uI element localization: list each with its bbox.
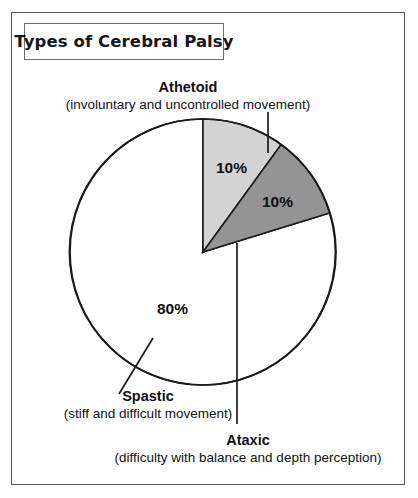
slice-value-athetoid: 10% xyxy=(216,159,247,177)
annotation-ataxic-name: Ataxic xyxy=(88,432,408,450)
slice-value-ataxic: 10% xyxy=(262,193,293,211)
annotation-spastic-description: (stiff and difficult movement) xyxy=(0,406,296,422)
title-box: Types of Cerebral Palsy xyxy=(24,23,224,60)
annotation-ataxic-description: (difficulty with balance and depth perce… xyxy=(88,450,408,466)
annotation-athetoid: Athetoid (involuntary and uncontrolled m… xyxy=(0,79,376,113)
annotation-athetoid-description: (involuntary and uncontrolled movement) xyxy=(0,97,376,113)
annotation-ataxic: Ataxic (difficulty with balance and dept… xyxy=(88,432,408,466)
page-title: Types of Cerebral Palsy xyxy=(14,32,233,51)
pie-chart-figure: Types of Cerebral Palsy 10% 10% 80% Athe… xyxy=(0,0,418,498)
annotation-athetoid-name: Athetoid xyxy=(0,79,376,97)
annotation-spastic-name: Spastic xyxy=(0,388,296,406)
annotation-spastic: Spastic (stiff and difficult movement) xyxy=(0,388,296,422)
slice-value-spastic: 80% xyxy=(157,300,188,318)
